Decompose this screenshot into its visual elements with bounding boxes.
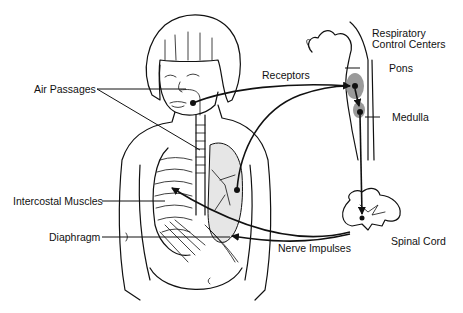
label-medulla: Medulla xyxy=(392,111,429,123)
respiratory-control-diagram: Respiratory Control Centers Pons Medulla… xyxy=(0,0,463,313)
pathways xyxy=(172,85,362,241)
eyes xyxy=(165,74,199,77)
hair-strands xyxy=(165,32,212,60)
pons-dot xyxy=(352,83,358,89)
torso-left xyxy=(119,112,175,300)
diaphragm-fibers xyxy=(160,220,205,262)
medulla-dot xyxy=(357,109,363,115)
nerve-to-intercostal-arrow xyxy=(172,188,350,237)
child-figure xyxy=(119,15,270,300)
rib-cage-outline xyxy=(153,148,190,255)
spinal-cord-dot xyxy=(360,216,365,221)
label-pons: Pons xyxy=(389,62,413,74)
mouth xyxy=(170,102,186,108)
label-diaphragm: Diaphragm xyxy=(49,231,100,243)
gray-matter xyxy=(360,205,385,215)
face-outline xyxy=(160,65,218,115)
air-passages-leader-2 xyxy=(97,89,200,150)
label-respiratory-control-centers-line2: Control Centers xyxy=(372,38,446,50)
label-receptors: Receptors xyxy=(262,69,310,81)
ribs xyxy=(155,158,192,233)
spinal-cord-section xyxy=(343,188,401,230)
brainstem xyxy=(307,22,374,160)
lung-receptor-path xyxy=(237,86,348,190)
medulla-to-spinal-arrow xyxy=(360,115,362,214)
label-intercostal-muscles: Intercostal Muscles xyxy=(13,195,103,207)
navel xyxy=(208,278,210,284)
label-spinal-cord: Spinal Cord xyxy=(391,235,446,247)
label-air-passages: Air Passages xyxy=(34,83,96,95)
label-nerve-impulses: Nerve Impulses xyxy=(278,242,351,254)
belly xyxy=(150,268,242,289)
nose xyxy=(178,82,182,92)
